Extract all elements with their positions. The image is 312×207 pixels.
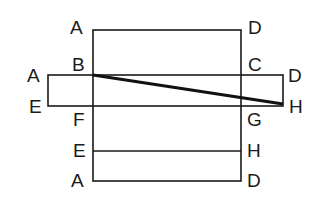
- label-lower-H: H: [247, 140, 261, 161]
- label-band-right-D: D: [288, 65, 302, 86]
- folding-diagram: A D B C A D E H F G E H A D: [0, 0, 312, 207]
- label-bottom-A: A: [71, 170, 84, 191]
- shifted-strip: [48, 75, 283, 106]
- label-bottom-D: D: [247, 170, 261, 191]
- label-band-right-H: H: [289, 96, 303, 117]
- label-G: G: [247, 109, 262, 130]
- diagonal-BH: [93, 75, 283, 104]
- label-C: C: [248, 54, 262, 75]
- label-B: B: [72, 54, 85, 75]
- label-F: F: [73, 109, 85, 130]
- label-lower-E: E: [73, 140, 86, 161]
- label-top-left-A: A: [70, 17, 83, 38]
- label-band-left-E: E: [29, 96, 42, 117]
- label-band-left-A: A: [27, 65, 40, 86]
- label-top-right-D: D: [248, 17, 262, 38]
